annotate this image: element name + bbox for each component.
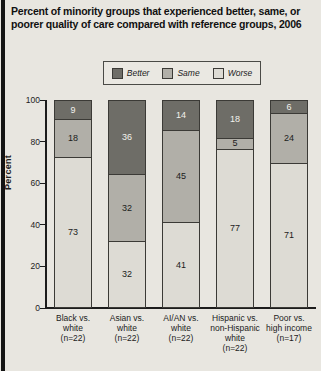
bars-group: 918733632321445411857762471 <box>46 100 316 308</box>
segment-value-label: 36 <box>122 133 132 142</box>
chart-title: Percent of minority groups that experien… <box>11 5 313 31</box>
bar-segment-better: 14 <box>163 101 199 130</box>
bar-segment-same: 32 <box>109 174 145 240</box>
y-tick-mark <box>40 183 45 184</box>
x-category-label-3: AI/AN vs. white (n=22) <box>154 313 208 353</box>
segment-value-label: 24 <box>284 134 294 143</box>
segment-value-label: 9 <box>70 106 75 115</box>
bar-4: 18577 <box>216 100 254 308</box>
segment-value-label: 5 <box>232 139 237 148</box>
y-tick-label: 0 <box>10 303 40 313</box>
bar-segment-worse: 71 <box>271 163 307 307</box>
legend-item-worse: Worse <box>213 68 253 79</box>
y-tick-mark <box>40 141 45 142</box>
segment-value-label: 71 <box>284 231 294 240</box>
bar-segment-same: 5 <box>217 138 253 149</box>
x-axis-labels: Black vs. white (n=22)Asian vs. white (n… <box>46 313 316 353</box>
segment-value-label: 32 <box>122 204 132 213</box>
y-tick-mark <box>40 100 45 101</box>
bar-3: 144541 <box>162 100 200 308</box>
segment-value-label: 41 <box>176 261 186 270</box>
legend: BetterSameWorse <box>103 61 261 85</box>
segment-value-label: 14 <box>176 111 186 120</box>
bar-segment-same: 45 <box>163 130 199 223</box>
bar-segment-worse: 41 <box>163 222 199 307</box>
bar-1: 91873 <box>54 100 92 308</box>
legend-label: Better <box>127 68 150 78</box>
y-tick-mark <box>40 266 45 267</box>
segment-value-label: 6 <box>286 103 291 112</box>
y-tick-label: 40 <box>10 220 40 230</box>
y-tick-label: 80 <box>10 137 40 147</box>
x-category-label-5: Poor vs. high income (n=17) <box>262 313 316 353</box>
segment-value-label: 18 <box>230 115 240 124</box>
segment-value-label: 73 <box>68 228 78 237</box>
bar-segment-better: 36 <box>109 101 145 174</box>
report-page: Percent of minority groups that experien… <box>0 0 321 371</box>
segment-value-label: 32 <box>122 270 132 279</box>
bar-segment-same: 18 <box>55 119 91 157</box>
segment-value-label: 18 <box>68 134 78 143</box>
legend-label: Worse <box>228 68 253 78</box>
plot-area: 020406080100 918733632321445411857762471 <box>46 100 316 308</box>
x-category-label-4: Hispanic vs. non-Hispanic white (n=22) <box>208 313 262 353</box>
segment-value-label: 45 <box>176 172 186 181</box>
legend-item-better: Better <box>112 68 150 79</box>
legend-swatch-same <box>162 68 173 79</box>
bar-segment-worse: 32 <box>109 241 145 307</box>
y-tick-label: 100 <box>10 95 40 105</box>
bar-segment-worse: 77 <box>217 149 253 307</box>
legend-swatch-worse <box>213 68 224 79</box>
bar-2: 363232 <box>108 100 146 308</box>
bar-5: 62471 <box>270 100 308 308</box>
bar-segment-better: 9 <box>55 101 91 119</box>
bar-segment-same: 24 <box>271 113 307 162</box>
bar-segment-worse: 73 <box>55 157 91 307</box>
legend-item-same: Same <box>162 68 199 79</box>
y-tick-mark <box>40 308 45 309</box>
x-category-label-2: Asian vs. white (n=22) <box>100 313 154 353</box>
x-category-label-1: Black vs. white (n=22) <box>46 313 100 353</box>
y-tick-label: 60 <box>10 178 40 188</box>
segment-value-label: 77 <box>230 224 240 233</box>
legend-swatch-better <box>112 68 123 79</box>
legend-label: Same <box>177 68 199 78</box>
bar-segment-better: 6 <box>271 101 307 113</box>
y-tick-label: 20 <box>10 261 40 271</box>
y-tick-mark <box>40 224 45 225</box>
bar-segment-better: 18 <box>217 101 253 138</box>
